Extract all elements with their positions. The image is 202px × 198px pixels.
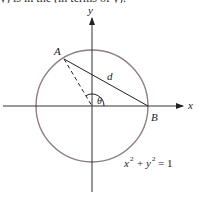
x-axis-label: x [187,99,193,111]
unit-circle-diagram: y x A B d θ x 2 + y 2 = 1 [0,0,202,198]
svg-text:= 1: = 1 [158,157,172,169]
segment-d-label: d [107,70,113,82]
svg-text:y: y [145,157,151,169]
segment-d [64,59,148,106]
svg-text:x: x [123,157,129,169]
svg-text:2: 2 [130,155,134,163]
circle-equation: x 2 + y 2 = 1 [123,155,172,169]
svg-text:2: 2 [152,155,156,163]
svg-text:+: + [137,157,143,169]
point-a-label: A [53,45,61,57]
theta-label: θ [97,95,102,106]
dashed-radius-oa [64,59,92,106]
y-axis-label: y [87,4,93,16]
point-b-label: B [151,111,158,123]
